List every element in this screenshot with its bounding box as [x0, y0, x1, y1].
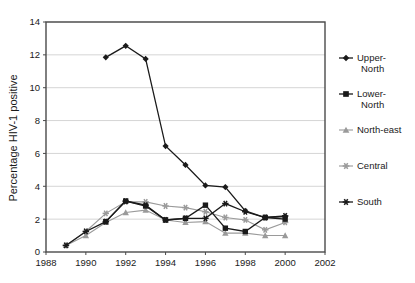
- legend-label-upper-north: Upper-: [357, 52, 386, 63]
- x-tick-label-2000: 2000: [275, 257, 296, 268]
- y-tick-label-10: 10: [29, 82, 40, 93]
- data-point-square: [343, 91, 349, 97]
- line-chart: 02468101214 1988199019921994199619982000…: [0, 0, 415, 283]
- legend-label-lower-north-line2: North: [361, 99, 384, 110]
- legend-label-upper-north-line2: North: [361, 63, 384, 74]
- x-tick-label-1998: 1998: [235, 257, 256, 268]
- y-tick-label-2: 2: [35, 214, 40, 225]
- y-tick-label-6: 6: [35, 148, 40, 159]
- legend-label-north-east: North-east: [357, 124, 402, 135]
- x-tick-label-1992: 1992: [115, 257, 136, 268]
- legend-label-lower-north: Lower-: [357, 88, 386, 99]
- y-tick-label-4: 4: [35, 181, 40, 192]
- y-tick-label-12: 12: [29, 49, 40, 60]
- legend-label-south: South: [357, 196, 382, 207]
- y-tick-label-0: 0: [35, 246, 40, 257]
- x-tick-label-1988: 1988: [35, 257, 56, 268]
- data-point-square: [223, 225, 228, 230]
- x-tick-label-2002: 2002: [314, 257, 335, 268]
- x-tick-label-1990: 1990: [75, 257, 96, 268]
- data-point-square: [243, 229, 248, 234]
- chart-background: [0, 0, 415, 283]
- data-point-square: [203, 202, 208, 207]
- y-tick-label-14: 14: [29, 16, 40, 27]
- x-tick-label-1994: 1994: [155, 257, 176, 268]
- chart-figure: 02468101214 1988199019921994199619982000…: [0, 0, 415, 283]
- y-tick-label-8: 8: [35, 115, 40, 126]
- y-axis-title: Percentage HIV-1 positive: [7, 74, 19, 201]
- legend-label-central: Central: [357, 160, 388, 171]
- x-tick-label-1996: 1996: [195, 257, 216, 268]
